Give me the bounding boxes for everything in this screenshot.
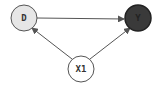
node-d: D (11, 5, 37, 31)
edge-x1-to-y (90, 28, 130, 59)
edge-x1-to-d (32, 28, 72, 59)
edge-d-to-y (37, 18, 124, 19)
node-y: Y (125, 5, 151, 31)
node-x1-label: X1 (76, 64, 87, 74)
node-y-label: Y (135, 13, 141, 23)
node-x1: X1 (68, 56, 94, 82)
node-d-label: D (21, 13, 27, 23)
dag-canvas: D Y X1 (0, 0, 161, 85)
